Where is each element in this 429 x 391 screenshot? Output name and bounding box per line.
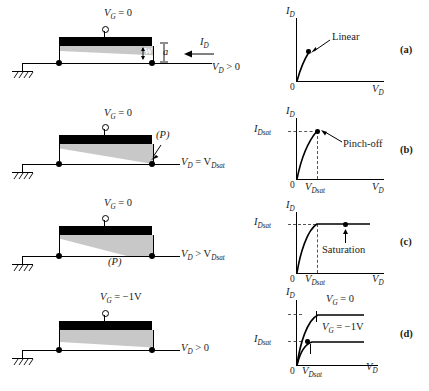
curve-label-vg0-d: VG = 0 — [326, 294, 354, 307]
drain-wire-d — [152, 350, 180, 351]
drain-voltage-label-b: VD = VDsat — [181, 157, 225, 170]
linear-leader-a — [310, 38, 332, 54]
panel-tag-d: (d) — [400, 328, 413, 339]
depletion-region-c — [60, 235, 153, 256]
panel-tag-a: (a) — [400, 44, 412, 55]
panel-d: VG = −1V VD > 0 ID — [0, 284, 429, 391]
gate-metal-a — [59, 37, 152, 46]
semiconductor-body-b — [59, 144, 154, 165]
linear-annotation-a: Linear — [332, 32, 359, 43]
y-axis-label-d: ID — [286, 287, 295, 300]
depletion-region-b — [60, 144, 153, 164]
drain-voltage-label-c: VD > VDsat — [181, 249, 225, 262]
ground-hatch-c — [12, 265, 34, 273]
pinchoff-label-b: (P) — [156, 130, 169, 141]
pinchoff-annotation-b: Pinch-off — [343, 139, 382, 150]
panel-tag-b: (b) — [400, 144, 413, 155]
drain-voltage-label-a: VD > 0 — [212, 62, 240, 75]
saturation-annotation-c: Saturation — [322, 245, 365, 256]
drain-wire-c — [152, 256, 180, 257]
graph-b: ID VD 0 IDsat VDsat Pinch-off — [296, 118, 396, 190]
curve-vgneg1-d — [296, 300, 396, 380]
curve-linear-a — [296, 18, 396, 90]
panel-c: VG = 0 (P) VD > VDsat — [0, 192, 429, 284]
ground-hatch-a — [12, 72, 34, 80]
device-diagram-c: VG = 0 (P) VD > VDsat — [0, 192, 280, 284]
panel-b: VG = 0 (P) VD — [0, 100, 429, 192]
gate-voltage-label-d: VG = −1V — [100, 292, 142, 305]
saturation-point-c — [343, 222, 348, 227]
gate-metal-b — [59, 135, 152, 144]
channel-width-label-a: W — [144, 47, 153, 56]
saturation-arrow-c — [341, 228, 351, 244]
pinchoff-leader-graph-b — [320, 130, 344, 146]
ground-hatch-d — [12, 359, 34, 367]
y-tick-label-c: IDsat — [254, 217, 271, 230]
channel-depth-label-a: a — [163, 47, 168, 58]
data-point-lower-d — [305, 339, 310, 344]
ground-hatch-b — [12, 173, 34, 181]
y-axis-label-b: ID — [286, 106, 295, 119]
gate-metal-d — [59, 321, 152, 330]
origin-label-c: 0 — [290, 274, 295, 284]
y-tick-label-b: IDsat — [254, 124, 271, 137]
device-diagram-a: VG = 0 — [0, 0, 260, 100]
semiconductor-body-d — [59, 330, 154, 351]
drain-voltage-label-d: VD > 0 — [181, 343, 209, 356]
origin-label-d: 0 — [290, 366, 295, 376]
gate-voltage-label-a: VG = 0 — [104, 8, 132, 21]
panel-a: VG = 0 — [0, 0, 429, 100]
origin-label-b: 0 — [290, 180, 295, 190]
graph-c: ID VD 0 IDsat VDsat Saturation — [296, 212, 396, 284]
semiconductor-body-c — [59, 235, 154, 257]
curve-pinchoff-b — [296, 118, 396, 190]
gate-metal-c — [59, 226, 152, 235]
graph-a: ID VD 0 Linear — [296, 18, 396, 90]
source-wire-d — [22, 350, 59, 351]
source-wire-a — [22, 63, 59, 64]
pinchoff-label-c: (P) — [108, 257, 121, 268]
drain-current-label-a: ID — [200, 37, 209, 50]
depletion-region-d — [60, 330, 153, 350]
origin-label-a: 0 — [290, 82, 295, 92]
source-wire-b — [22, 164, 59, 165]
gate-voltage-label-b: VG = 0 — [104, 108, 132, 121]
graph-d: ID VD 0 IDsat VDsat VG = 0 VG = −1V — [296, 300, 396, 380]
drain-current-arrow-a — [182, 50, 216, 60]
pinchoff-leader-b — [150, 144, 164, 162]
jfet-operation-figure: VG = 0 — [0, 0, 429, 391]
device-diagram-b: VG = 0 (P) VD — [0, 100, 280, 192]
y-axis-label-a: ID — [286, 6, 295, 19]
curve-label-vgneg1-d: VG = −1V — [322, 322, 364, 335]
y-tick-label-d: IDsat — [254, 334, 271, 347]
source-wire-c — [22, 256, 59, 257]
drain-wire-b — [152, 164, 180, 165]
panel-tag-c: (c) — [400, 236, 412, 247]
gate-voltage-label-c: VG = 0 — [104, 198, 132, 211]
device-diagram-d: VG = −1V VD > 0 — [0, 284, 280, 391]
y-axis-label-c: ID — [286, 200, 295, 213]
pinchoff-point-b — [315, 129, 320, 134]
